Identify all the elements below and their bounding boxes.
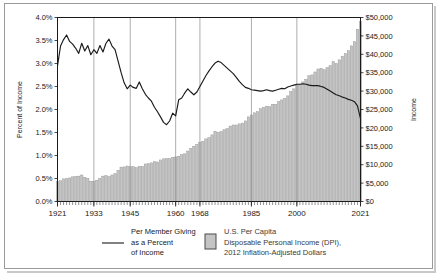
income-bar: [293, 89, 295, 202]
income-bar: [84, 177, 86, 201]
income-bar: [211, 135, 213, 202]
income-bar: [156, 162, 158, 202]
income-bar: [196, 144, 198, 201]
legend-label-income: 2012 Inflation-Adjusted Dollars: [224, 248, 326, 257]
income-bar: [284, 98, 286, 201]
income-bar: [314, 72, 316, 202]
legend-label-income: U.S. Per Capita: [224, 227, 277, 236]
y-axis-tick-label: 1.5%: [35, 128, 52, 137]
x-axis-tick-label: 1945: [121, 209, 139, 218]
income-bar: [114, 174, 116, 202]
legend: Per Member Givingas a Percentof IncomeU.…: [102, 227, 341, 257]
income-bar: [259, 109, 261, 202]
income-bar: [181, 155, 183, 202]
income-bar: [335, 64, 337, 202]
income-bar: [123, 167, 125, 202]
income-bar: [347, 51, 349, 202]
x-axis-tick-label: 1921: [49, 209, 67, 218]
legend-label-giving: of Income: [131, 248, 164, 257]
income-bar: [332, 62, 334, 202]
income-bar: [105, 176, 107, 202]
income-bar: [217, 132, 219, 201]
y-axis-tick-label: 4.0%: [35, 13, 52, 22]
x-axis-annual-ticks: [58, 202, 361, 206]
income-bar: [62, 179, 64, 202]
x-axis-tick-label: 1985: [243, 209, 261, 218]
y2-axis-tick-label: $0: [366, 197, 374, 206]
income-bar: [150, 163, 152, 202]
income-bar: [68, 178, 70, 202]
income-bar: [290, 91, 292, 201]
income-bar: [229, 126, 231, 201]
income-bar: [281, 100, 283, 202]
income-bar: [247, 117, 249, 202]
income-bar: [278, 102, 280, 202]
y2-axis-tick-label: $45,000: [366, 32, 393, 41]
income-bar: [144, 164, 146, 202]
income-bar: [223, 130, 225, 202]
income-bar: [308, 76, 310, 202]
income-bar: [317, 69, 319, 201]
legend-label-giving: Per Member Giving: [131, 227, 196, 236]
x-axis-tick-label: 2000: [288, 209, 306, 218]
income-bar: [356, 29, 358, 201]
income-bar: [338, 60, 340, 202]
x-axis-tick-label: 2021: [352, 209, 370, 218]
income-bar: [341, 56, 343, 201]
legend-swatch-marker: [205, 234, 216, 249]
income-bar: [271, 104, 273, 201]
x-axis-tick-label: 1968: [191, 209, 209, 218]
income-bar: [190, 149, 192, 202]
income-bar: [162, 159, 164, 202]
income-bar: [138, 166, 140, 201]
income-bar: [168, 159, 170, 202]
income-bar: [238, 124, 240, 202]
income-bar: [141, 166, 143, 201]
income-bar: [96, 180, 98, 201]
income-bar: [184, 154, 186, 202]
income-bar: [202, 141, 204, 201]
income-bar: [305, 79, 307, 201]
y2-axis-tick-label: $5,000: [366, 179, 389, 188]
income-bar: [323, 70, 325, 202]
income-bar: [205, 139, 207, 202]
y-axis-tick-label: 1.0%: [35, 151, 52, 160]
right-axis-title: Income: [410, 98, 417, 121]
income-bar: [320, 68, 322, 201]
income-bar: [135, 168, 137, 202]
giving-vs-income-chart: 0.0%0.5%1.0%1.5%2.0%2.5%3.0%3.5%4.0%$0$5…: [0, 0, 440, 277]
income-bar: [353, 42, 355, 202]
income-bar: [220, 132, 222, 202]
income-bar: [90, 181, 92, 201]
income-bar: [268, 107, 270, 202]
income-bar: [159, 160, 161, 202]
income-bar: [71, 177, 73, 202]
income-bar: [253, 113, 255, 202]
y2-axis-tick-label: $15,000: [366, 142, 393, 151]
income-bar: [117, 170, 119, 201]
y-axis-tick-label: 2.0%: [35, 105, 52, 114]
income-bar: [81, 175, 83, 202]
legend-label-income: Disposable Personal Income (DPI),: [224, 238, 341, 247]
x-axis-tick-label: 1933: [85, 209, 103, 218]
left-axis-title: Percent of Income: [16, 81, 23, 138]
income-bar: [153, 162, 155, 202]
income-bar: [75, 177, 77, 202]
y2-axis-tick-label: $10,000: [366, 160, 393, 169]
income-bar: [171, 157, 173, 201]
income-bar: [78, 176, 80, 201]
income-bar: [262, 107, 264, 201]
income-bar: [178, 156, 180, 201]
y-axis-tick-label: 0.5%: [35, 174, 52, 183]
y2-axis-tick-label: $50,000: [366, 13, 393, 22]
income-bar: [311, 75, 313, 202]
income-bar: [226, 129, 228, 202]
income-bar: [65, 179, 67, 202]
income-bar: [132, 167, 134, 202]
chart-svg: 0.0%0.5%1.0%1.5%2.0%2.5%3.0%3.5%4.0%$0$5…: [0, 0, 440, 277]
income-bar: [287, 96, 289, 202]
income-bar: [299, 84, 301, 201]
income-bar: [126, 166, 128, 202]
income-bar: [232, 125, 234, 202]
y2-axis-tick-label: $20,000: [366, 124, 393, 133]
